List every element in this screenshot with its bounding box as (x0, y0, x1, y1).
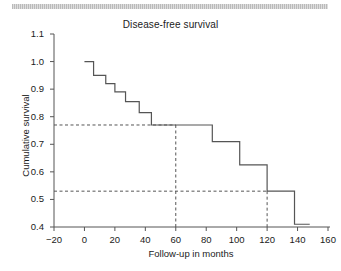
y-tick-marks (50, 34, 54, 227)
y-tick-label: 0.9 (18, 83, 44, 94)
y-tick-label: 1.1 (18, 28, 44, 39)
survival-step-curve (84, 62, 309, 225)
axes-group (54, 34, 330, 227)
y-tick-label: 0.8 (18, 111, 44, 122)
x-tick-label: 60 (159, 234, 193, 245)
reference-lines-group (54, 125, 267, 227)
y-tick-label: 0.4 (18, 221, 44, 232)
figure-panel: Disease-free survival Cumulative surviva… (0, 0, 341, 271)
x-tick-label: 120 (250, 234, 284, 245)
x-tick-label: −20 (37, 234, 71, 245)
x-tick-label: 140 (281, 234, 315, 245)
x-tick-marks (54, 227, 328, 231)
x-tick-label: 20 (98, 234, 132, 245)
y-tick-label: 0.6 (18, 166, 44, 177)
x-tick-label: 80 (189, 234, 223, 245)
y-tick-label: 0.5 (18, 193, 44, 204)
x-tick-label: 100 (220, 234, 254, 245)
x-tick-label: 160 (311, 234, 341, 245)
x-tick-label: 0 (67, 234, 101, 245)
chart-canvas (0, 0, 341, 271)
y-tick-label: 0.7 (18, 138, 44, 149)
x-tick-label: 40 (128, 234, 162, 245)
y-tick-label: 1.0 (18, 56, 44, 67)
